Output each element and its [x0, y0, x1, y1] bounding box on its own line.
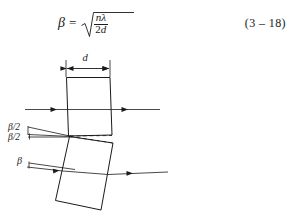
- equation-equals-sign: =: [68, 15, 80, 31]
- ray-arrow-icon: [126, 171, 133, 176]
- thickness-label: d: [82, 52, 88, 63]
- equation-row: β = nλ 2d (3 – 18): [0, 8, 308, 42]
- ray-arrow-icon: [51, 107, 58, 112]
- half-angle-fan: [28, 126, 72, 140]
- square-root-symbol: nλ 2d: [80, 8, 108, 38]
- upper-ray: [25, 107, 160, 112]
- ray-arrow-icon: [53, 169, 60, 174]
- figure-page: β = nλ 2d (3 – 18): [0, 0, 308, 221]
- dimension-arrowhead-right: [103, 66, 110, 71]
- full-angle-label: β: [16, 155, 22, 166]
- lower-tilted-crystal-block: [56, 137, 114, 211]
- lower-block-outline: [56, 137, 114, 211]
- ray-inside-lower-block: [63, 171, 108, 175]
- transmitted-ray-lower: [108, 172, 168, 175]
- ray-arrow-icon: [122, 107, 129, 112]
- full-angle-reference-line: [29, 163, 75, 170]
- upper-block-outline: [67, 78, 113, 137]
- upper-crystal-block: [67, 78, 113, 137]
- thickness-dimension: [66, 60, 110, 77]
- fraction-denominator: 2d: [93, 22, 108, 35]
- dimension-arrowhead-left: [67, 66, 74, 71]
- equation-expression: β = nλ 2d: [58, 8, 108, 38]
- optics-diagram: d β/2 β/2 β: [0, 48, 308, 221]
- half-angle-label-lower: β/2: [7, 132, 20, 142]
- radicand-fraction: nλ 2d: [93, 12, 108, 36]
- equation-number: (3 – 18): [245, 16, 286, 31]
- denominator-symbol: d: [101, 23, 107, 35]
- lower-ray: [27, 167, 168, 176]
- half-angle-label-upper: β/2: [7, 122, 20, 132]
- equation-lhs-beta: β: [58, 15, 68, 31]
